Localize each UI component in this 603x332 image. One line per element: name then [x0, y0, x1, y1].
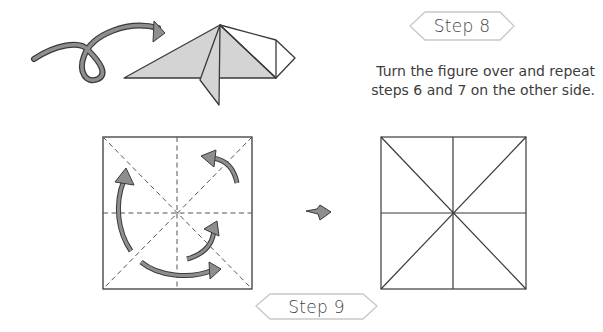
square-solid-creases	[381, 137, 526, 289]
step-9-badge: Step 9	[256, 294, 377, 319]
result-arrow-icon	[306, 205, 331, 220]
instruction-line-2: steps 6 and 7 on the other side.	[275, 81, 595, 100]
step-8-instruction: Turn the figure over and repeat steps 6 …	[275, 62, 595, 100]
step-9-label: Step 9	[256, 294, 377, 319]
instruction-line-1: Turn the figure over and repeat	[275, 62, 595, 81]
diagram-canvas: Step 8 Turn the figure over and repeat s…	[0, 0, 603, 332]
step-8-label: Step 8	[410, 12, 514, 40]
folded-figure	[124, 25, 295, 105]
square-dashed-creases	[103, 137, 252, 289]
step-8-badge: Step 8	[410, 12, 514, 40]
